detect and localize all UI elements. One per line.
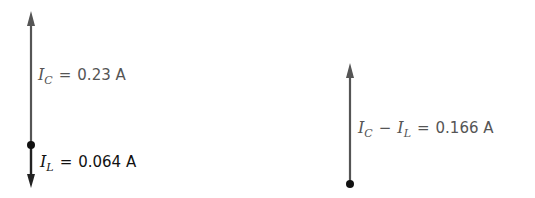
minus-sign: −: [379, 119, 392, 137]
il-subscript: L: [404, 127, 411, 140]
net-current-label: IC−IL=0.166 A: [358, 118, 494, 140]
il-equals: =: [60, 153, 73, 171]
ic-label: IC=0.23 A: [38, 65, 126, 87]
ic-value: 0.23 A: [77, 66, 125, 84]
net-current-value: 0.166 A: [436, 119, 494, 137]
ic-subscript: C: [364, 127, 372, 140]
net-current-phasor-arrow: [346, 63, 354, 184]
il-label: IL=0.064 A: [40, 152, 136, 174]
il-value: 0.064 A: [78, 153, 136, 171]
left-origin-dot: [27, 141, 35, 149]
il-subscript: L: [46, 161, 53, 174]
ic-phasor-arrow: [27, 11, 35, 145]
ic-subscript: C: [44, 74, 52, 87]
il-phasor-arrow: [27, 145, 35, 188]
right-origin-dot: [346, 180, 354, 188]
equals-sign: =: [417, 119, 430, 137]
ic-equals: =: [59, 66, 72, 84]
